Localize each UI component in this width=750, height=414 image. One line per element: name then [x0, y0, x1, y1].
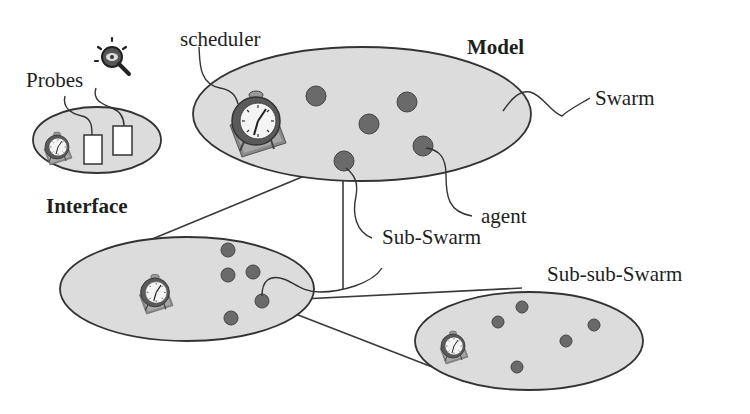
interface-group [33, 88, 161, 173]
interface-label: Interface [46, 196, 128, 217]
swarm-label: Swarm [595, 88, 655, 109]
probes-label: Probes [26, 70, 83, 91]
magnifier-probe-icon [95, 38, 129, 74]
agent-label: agent [481, 206, 526, 227]
sub-swarm-group [60, 237, 382, 341]
probe-1 [84, 135, 102, 164]
sub-sub-swarm-group [415, 292, 643, 390]
probe-2 [113, 126, 132, 155]
sub-sub-swarm-label: Sub-sub-Swarm [547, 264, 682, 285]
model-label: Model [467, 37, 524, 58]
scheduler-label: scheduler [180, 29, 260, 50]
sub-swarm-label: Sub-Swarm [382, 227, 481, 248]
model-swarm-group [193, 47, 590, 238]
